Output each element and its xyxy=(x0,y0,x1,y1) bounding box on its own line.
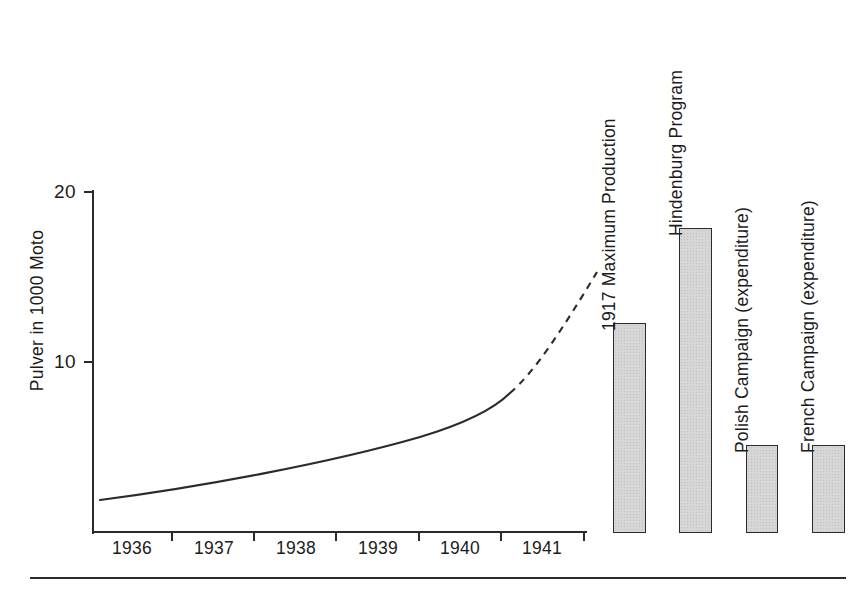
bar-label-1917-maximum-production: 1917 Maximum Production xyxy=(599,118,620,331)
plot-area: Pulver in 1000 Moto 20 10 1936 1937 1938… xyxy=(0,0,857,599)
bottom-rule xyxy=(30,577,846,579)
chart-figure: Pulver in 1000 Moto 20 10 1936 1937 1938… xyxy=(0,0,857,599)
bar-label-french-campaign: French Campaign (expenditure) xyxy=(798,200,819,453)
bar-label-hindenburg-program: Hindenburg Program xyxy=(666,70,687,236)
trend-curve-group xyxy=(0,0,857,599)
bar-hindenburg-program xyxy=(679,228,712,533)
bar-label-polish-campaign: Polish Campaign (expenditure) xyxy=(732,207,753,453)
bar-french-campaign xyxy=(812,445,845,533)
trend-line-solid xyxy=(100,393,510,500)
bar-polish-campaign xyxy=(746,445,778,533)
bar-1917-maximum-production xyxy=(613,323,646,533)
trend-line-dashed xyxy=(510,272,597,393)
